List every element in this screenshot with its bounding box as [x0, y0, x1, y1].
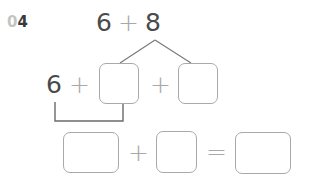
- decomp-answer-box-1[interactable]: [99, 63, 139, 104]
- split-branch-lines: [120, 40, 191, 63]
- result-answer-box-c[interactable]: [235, 132, 291, 174]
- result-answer-box-a[interactable]: [63, 132, 119, 173]
- grouping-bracket: [55, 102, 123, 121]
- decomp-first-operand: 6: [46, 71, 62, 99]
- decomp-plus-sign-2: +: [150, 71, 171, 99]
- result-plus-sign: +: [128, 139, 149, 167]
- decomp-answer-box-2[interactable]: [178, 63, 218, 104]
- equals-sign: =: [206, 138, 227, 166]
- result-answer-box-b[interactable]: [156, 131, 197, 173]
- decomp-plus-sign-1: +: [69, 71, 90, 99]
